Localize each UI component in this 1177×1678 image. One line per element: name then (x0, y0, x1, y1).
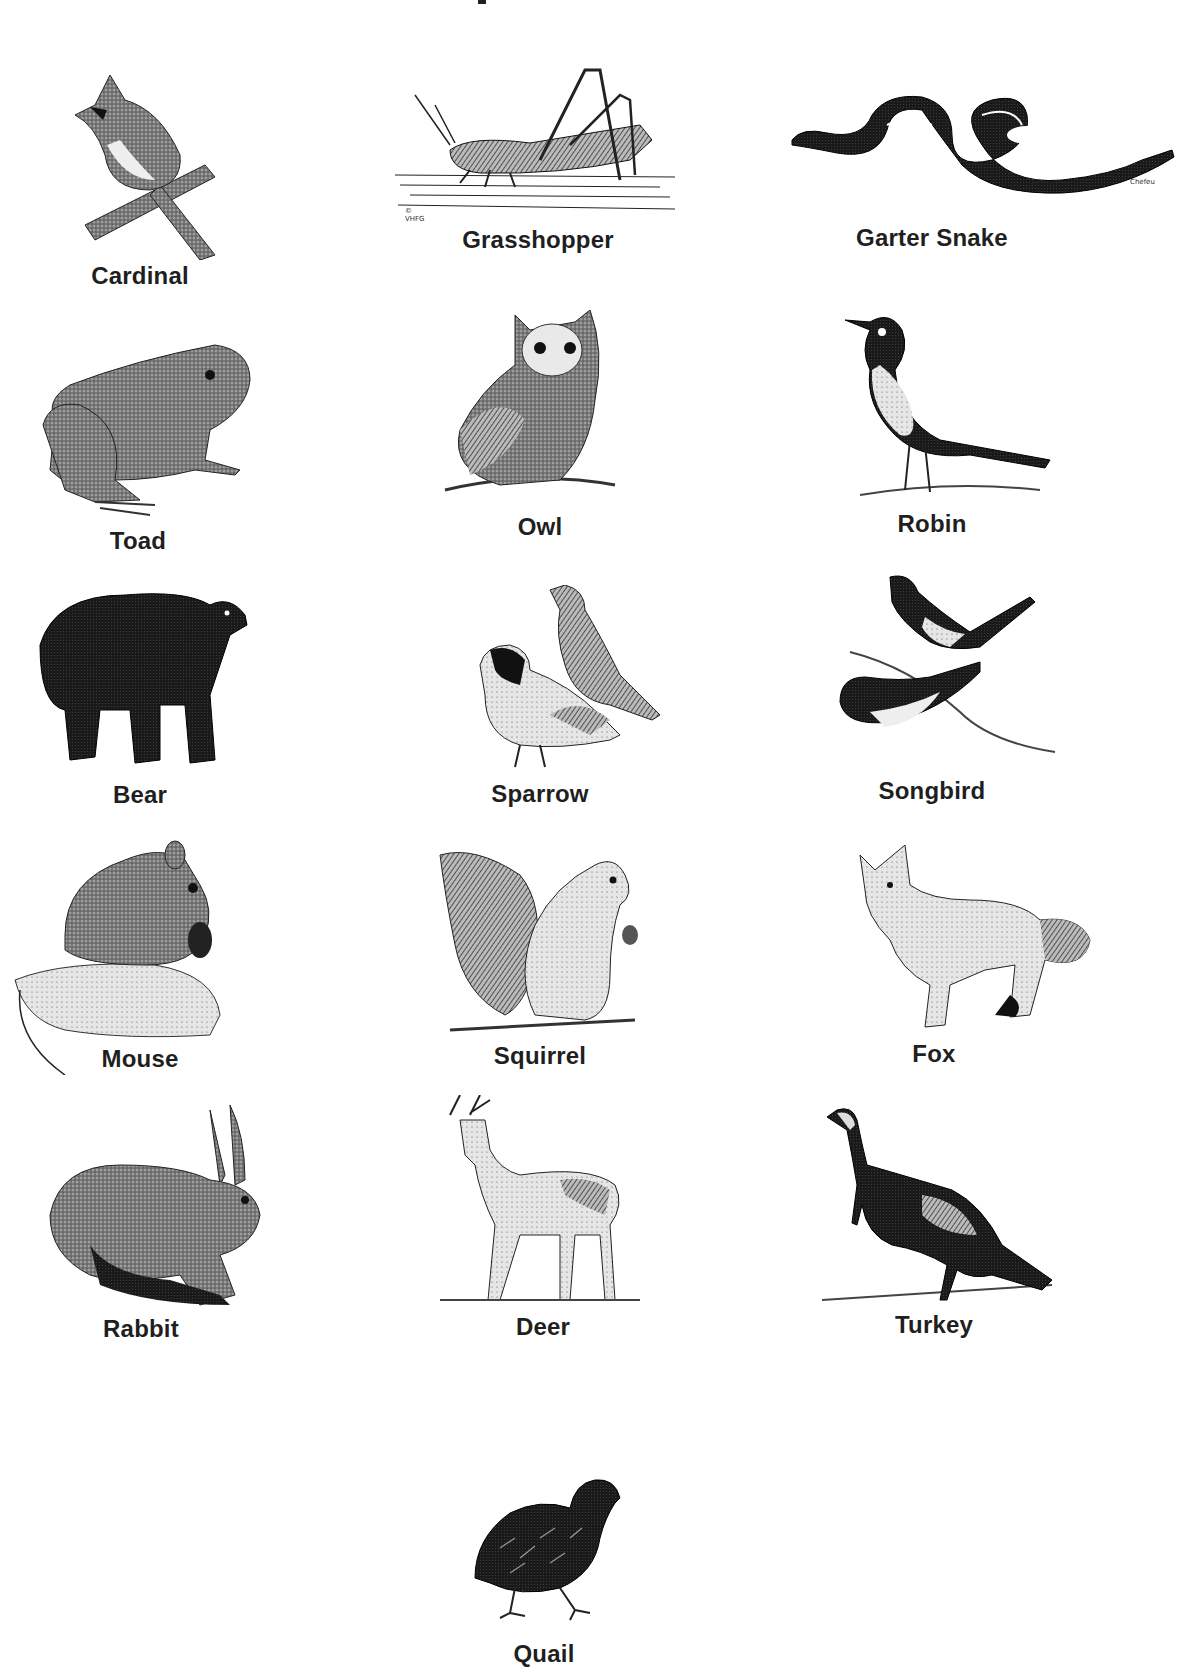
animal-label: Sparrow (491, 780, 588, 808)
toad-illustration (35, 330, 255, 520)
animal-label: Owl (518, 513, 563, 541)
animal-label: Grasshopper (462, 226, 614, 254)
sparrow-illustration (470, 585, 665, 770)
animal-label: Bear (113, 781, 167, 809)
quail-illustration (470, 1478, 625, 1623)
animal-label: Mouse (101, 1045, 178, 1073)
illustration-credit: © VHFG (405, 207, 425, 223)
animal-label: Toad (110, 527, 166, 555)
cardinal-illustration (65, 65, 225, 260)
animal-label: Fox (912, 1040, 955, 1068)
page-title-fragment (478, 0, 486, 4)
animal-label: Rabbit (103, 1315, 179, 1343)
grasshopper-illustration (390, 65, 680, 213)
animal-label: Deer (516, 1313, 570, 1341)
turkey-illustration (822, 1105, 1062, 1305)
robin-illustration (840, 310, 1060, 500)
owl-illustration (440, 310, 620, 505)
animal-label: Turkey (895, 1311, 973, 1339)
songbird-illustration (830, 572, 1060, 762)
rabbit-illustration (20, 1105, 270, 1310)
animal-label: Robin (898, 510, 967, 538)
garter-snake-illustration (782, 85, 1177, 195)
animal-label: Garter Snake (856, 224, 1008, 252)
fox-illustration (850, 845, 1095, 1035)
animal-label: Squirrel (494, 1042, 586, 1070)
mouse-illustration (5, 840, 230, 1075)
animal-label: Songbird (879, 777, 986, 805)
bear-illustration (35, 585, 250, 765)
illustration-credit: Chefeu (1130, 178, 1155, 186)
deer-illustration (440, 1095, 640, 1305)
squirrel-illustration (435, 845, 640, 1040)
animal-label: Cardinal (91, 262, 189, 290)
animal-label: Quail (513, 1640, 574, 1668)
